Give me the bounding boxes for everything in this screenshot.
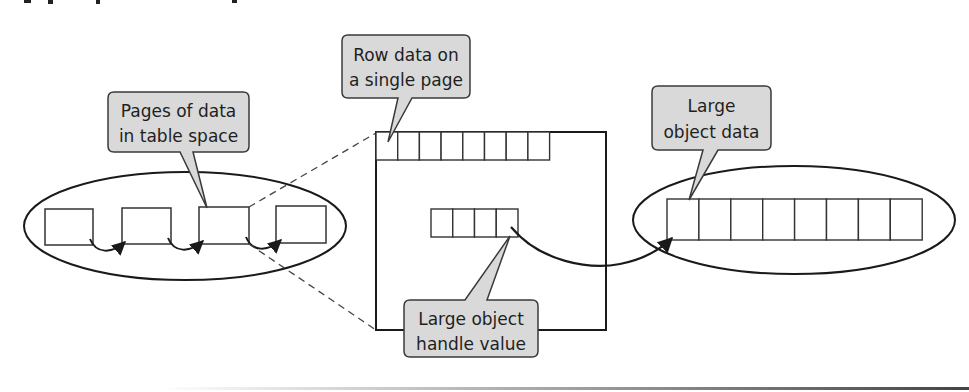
table-page-1: [45, 209, 93, 245]
lob-data-cell: [731, 199, 763, 240]
lob-data-cell: [858, 199, 890, 240]
callout-row-data: Row data on a single page: [342, 35, 470, 142]
callout-table-space-line2: in table space: [119, 126, 238, 146]
lob-data-cell: [763, 199, 795, 240]
lob-data-cell: [795, 199, 827, 240]
table-page-4: [276, 206, 326, 243]
row-data-cell: [441, 132, 463, 160]
callout-lob-data-line1: Large: [688, 96, 736, 116]
table-space: [24, 172, 346, 280]
table-page-2: [122, 208, 171, 244]
row-data-cell: [528, 132, 550, 160]
row-data-cells: [376, 132, 550, 160]
callout-lob-handle-line2: handle value: [416, 334, 526, 354]
zoom-line-bottom: [249, 244, 376, 330]
handle-cell: [475, 209, 497, 237]
row-data-cell: [419, 132, 441, 160]
callout-row-data-line1: Row data on: [353, 45, 459, 65]
clipped-caption: [24, 0, 237, 4]
handle-cells: [431, 209, 518, 237]
callout-lob-handle-line1: Large object: [418, 309, 524, 329]
callout-lob-data-line2: object data: [663, 122, 759, 142]
zoom-line-top: [249, 133, 376, 207]
callout-row-data-line2: a single page: [349, 70, 463, 90]
callout-table-space: Pages of data in table space: [108, 92, 249, 208]
callout-table-space-line1: Pages of data: [121, 101, 237, 121]
row-data-cell: [376, 132, 398, 160]
row-data-cell: [485, 132, 507, 160]
bottom-rule: [160, 387, 969, 390]
lob-data-cell: [890, 199, 922, 240]
lob-data-cell: [827, 199, 859, 240]
row-data-cell: [463, 132, 485, 160]
lob-storage-diagram: Pages of data in table space Row data on…: [0, 0, 969, 392]
handle-cell: [431, 209, 453, 237]
lob-data-cells: [667, 199, 922, 240]
lob-space: [633, 166, 955, 274]
lob-data-cell: [667, 199, 699, 240]
row-data-cell: [506, 132, 528, 160]
row-data-cell: [398, 132, 420, 160]
table-page-3: [199, 207, 249, 244]
page-link-arrow-1: [90, 239, 125, 251]
page-link-arrow-2: [168, 238, 203, 250]
lob-data-cell: [699, 199, 731, 240]
handle-cell: [453, 209, 475, 237]
callout-lob-data: Large object data: [652, 86, 771, 200]
